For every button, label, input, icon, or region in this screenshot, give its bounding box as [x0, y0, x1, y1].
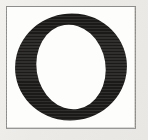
glyph-stage — [6, 6, 136, 129]
specimen-canvas: O — [0, 0, 148, 140]
letter-o-glyph — [6, 6, 136, 129]
letter-o-outer-bowl — [7, 6, 134, 129]
